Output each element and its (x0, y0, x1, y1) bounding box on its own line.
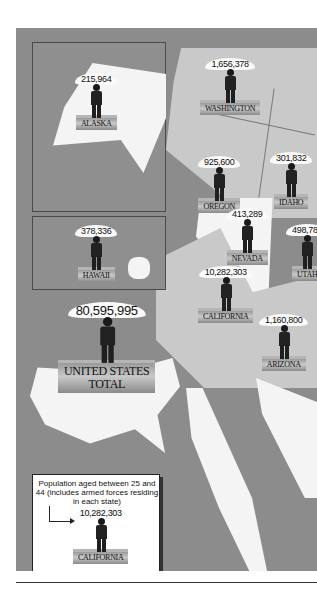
person-icon (94, 518, 108, 552)
person-icon (300, 235, 314, 269)
legend-box: Population aged between 25 and 44 (inclu… (32, 474, 160, 571)
utah-figure: 498,786 UTAH (286, 224, 317, 281)
us-total-value: 80,595,995 (68, 302, 146, 318)
hawaii-inset: 378,336 HAWAII (32, 216, 166, 290)
person-icon (97, 317, 116, 363)
idaho-figure: 301,832 IDAHO (270, 152, 312, 209)
land-mexico (256, 378, 317, 498)
person-icon (277, 325, 291, 359)
hawaii-figure: 378,336 HAWAII (75, 225, 117, 282)
washington-figure: 1,656,378 WASHINGTON (200, 58, 260, 115)
arrow-line (49, 506, 50, 522)
map-background: 215,964 ALASKA 378,336 HAWAII 80,595,995… (16, 28, 317, 571)
page-rule (16, 582, 317, 583)
california-figure: 10,282,303 CALIFORNIA (198, 266, 253, 323)
legend-text: Population aged between 25 and 44 (inclu… (33, 479, 161, 506)
legend-figure: 10,282,303 CALIFORNIA (73, 507, 128, 564)
alaska-figure: 215,964 ALASKA (75, 73, 117, 130)
person-icon (284, 163, 298, 197)
us-total-label: UNITED STATES TOTAL (58, 360, 155, 393)
nevada-figure: 413,289 NEVADA (226, 208, 268, 265)
arrow-line (49, 521, 71, 522)
person-icon (89, 84, 103, 118)
person-icon (223, 69, 237, 103)
person-icon (219, 277, 233, 311)
oregon-figure: 925,600 OREGON (198, 156, 240, 213)
person-icon (240, 219, 254, 253)
hawaii-islands (128, 257, 150, 279)
alaska-inset: 215,964 ALASKA (32, 42, 166, 212)
person-icon (89, 236, 103, 270)
arizona-figure: 1,160,800 ARIZONA (259, 314, 308, 371)
us-total-figure: 80,595,995 UNITED STATES TOTAL (58, 302, 155, 393)
person-icon (212, 167, 226, 201)
